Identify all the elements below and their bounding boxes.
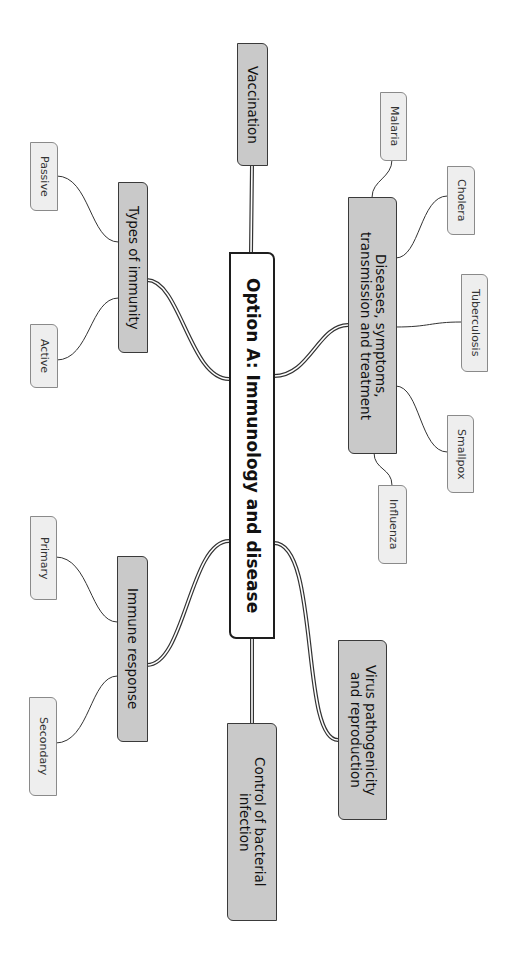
branch-control-bacterial-infection[interactable]: Control of bacterial infection [227, 723, 277, 921]
leaf-secondary[interactable]: Secondary [29, 697, 57, 796]
leaf-tuberculosis[interactable]: Tuberculosis [461, 274, 488, 372]
leaf-label: Influenza [386, 499, 398, 549]
leaf-label: Passive [38, 156, 50, 197]
branch-label: Diseases, symptoms, transmission and tre… [357, 232, 387, 420]
branch-types-of-immunity[interactable]: Types of immunity [118, 182, 148, 353]
leaf-influenza[interactable]: Influenza [378, 485, 407, 564]
leaf-label: Active [38, 339, 50, 373]
branch-label: Control of bacterial infection [237, 757, 267, 887]
branch-immune-response[interactable]: Immune response [117, 556, 148, 742]
leaf-active[interactable]: Active [30, 324, 58, 388]
leaf-label: Primary [37, 537, 49, 580]
leaf-malaria[interactable]: Malaria [380, 92, 407, 161]
branch-label: Immune response [125, 588, 140, 709]
branch-diseases[interactable]: Diseases, symptoms, transmission and tre… [348, 197, 397, 454]
branch-vaccination[interactable]: Vaccination [237, 43, 268, 166]
leaf-passive[interactable]: Passive [30, 142, 58, 211]
leaf-label: Tuberculosis [468, 289, 480, 356]
branch-label: Virus pathogenicity and reproduction [347, 665, 377, 796]
leaf-smallpox[interactable]: Smallpox [447, 415, 474, 493]
leaf-label: Malaria [387, 106, 399, 146]
branch-virus-pathogenicity[interactable]: Virus pathogenicity and reproduction [338, 640, 387, 820]
branch-label: Vaccination [245, 66, 260, 144]
leaf-label: Cholera [455, 179, 467, 221]
central-topic-label: Option A: Immunology and disease [242, 278, 261, 613]
leaf-label: Smallpox [454, 429, 466, 479]
branch-label: Types of immunity [125, 206, 140, 330]
central-topic-node[interactable]: Option A: Immunology and disease [229, 252, 275, 639]
leaf-label: Secondary [37, 717, 49, 775]
leaf-cholera[interactable]: Cholera [447, 166, 475, 235]
leaf-primary[interactable]: Primary [30, 516, 57, 600]
